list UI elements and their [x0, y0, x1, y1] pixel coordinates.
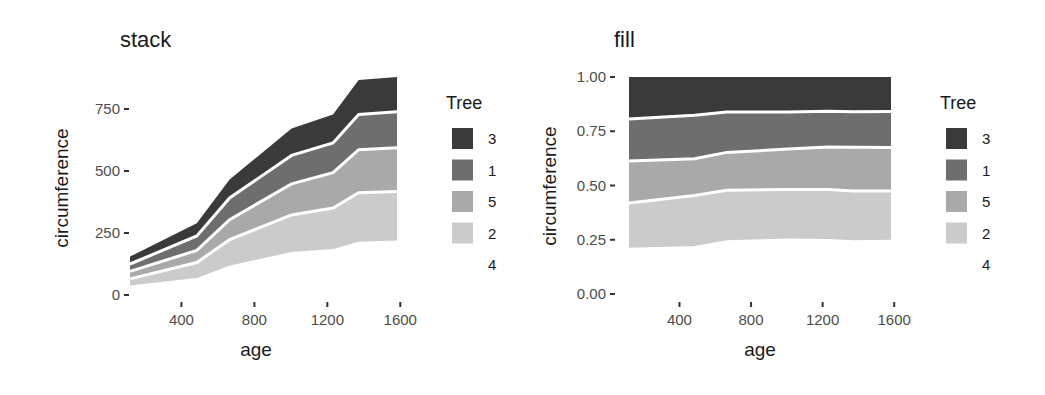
legend-label-tree-1: 1 — [982, 162, 990, 179]
x-tick-label: 400 — [169, 311, 194, 328]
stack-title: stack — [120, 27, 172, 52]
fill-legend: Tree 31524 — [940, 93, 990, 275]
y-tick-label: 250 — [95, 224, 120, 241]
legend-label-tree-4: 4 — [488, 256, 496, 273]
legend-swatch-tree-2 — [452, 223, 473, 244]
y-tick-label: 0.25 — [577, 231, 606, 248]
legend-swatch-tree-3 — [946, 128, 967, 149]
fill-panel: fill 0.000.250.500.751.00 40080012001600… — [539, 27, 990, 360]
legend-label-tree-3: 3 — [488, 130, 496, 147]
y-tick-label: 1.00 — [577, 68, 606, 85]
fill-title: fill — [614, 27, 635, 52]
fill-legend-title: Tree — [940, 93, 976, 113]
y-tick-label: 0 — [112, 286, 120, 303]
stack-y-axis-title: circumference — [51, 128, 72, 247]
stack-x-axis-title: age — [240, 339, 272, 360]
figure-canvas: stack 0250500750 40080012001600 age circ… — [0, 0, 1045, 395]
legend-label-tree-3: 3 — [982, 130, 990, 147]
legend-swatch-tree-5 — [946, 191, 967, 212]
legend-swatch-tree-5 — [452, 191, 473, 212]
fill-x-axis-title: age — [744, 339, 776, 360]
legend-swatch-tree-4 — [452, 254, 473, 275]
legend-label-tree-4: 4 — [982, 256, 990, 273]
y-tick-label: 750 — [95, 100, 120, 117]
y-tick-label: 0.00 — [577, 285, 606, 302]
legend-swatch-tree-1 — [452, 160, 473, 181]
legend-swatch-tree-3 — [452, 128, 473, 149]
stack-panel: stack 0250500750 40080012001600 age circ… — [51, 27, 496, 360]
legend-label-tree-2: 2 — [488, 225, 496, 242]
legend-label-tree-5: 5 — [488, 193, 496, 210]
x-tick-label: 1600 — [384, 311, 417, 328]
legend-label-tree-1: 1 — [488, 162, 496, 179]
stack-x-axis: 40080012001600 — [169, 302, 417, 328]
x-tick-label: 1600 — [878, 311, 911, 328]
legend-swatch-tree-4 — [946, 254, 967, 275]
fill-y-axis: 0.000.250.500.751.00 — [577, 68, 615, 302]
x-tick-label: 1200 — [806, 311, 839, 328]
y-tick-label: 0.75 — [577, 122, 606, 139]
stack-plot-area — [130, 77, 397, 295]
y-tick-label: 0.50 — [577, 177, 606, 194]
x-tick-label: 400 — [667, 311, 692, 328]
x-tick-label: 800 — [739, 311, 764, 328]
legend-swatch-tree-1 — [946, 160, 967, 181]
stack-y-axis: 0250500750 — [95, 100, 129, 303]
legend-swatch-tree-2 — [946, 223, 967, 244]
x-tick-label: 800 — [242, 311, 267, 328]
legend-label-tree-2: 2 — [982, 225, 990, 242]
stack-legend: Tree 31524 — [446, 93, 496, 275]
fill-plot-area — [629, 77, 891, 294]
fill-y-axis-title: circumference — [539, 126, 560, 245]
y-tick-label: 500 — [95, 162, 120, 179]
x-tick-label: 1200 — [311, 311, 344, 328]
stack-legend-title: Tree — [446, 93, 482, 113]
fill-x-axis: 40080012001600 — [667, 302, 911, 328]
legend-label-tree-5: 5 — [982, 193, 990, 210]
